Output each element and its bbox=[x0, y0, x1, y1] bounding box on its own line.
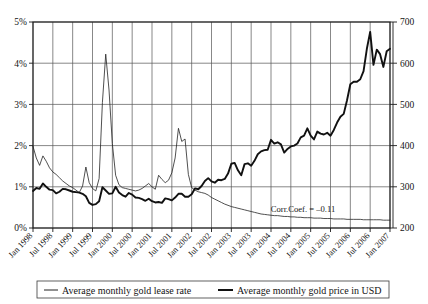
y-axis-left-tick-label: 1% bbox=[14, 182, 27, 192]
correlation-coefficient-annotation: Corr.Coef. = –0.11 bbox=[271, 204, 335, 214]
y-axis-right-tick-label: 600 bbox=[400, 59, 415, 69]
gold-lease-rate-vs-price-chart: 0%1%2%3%4%5% 200300400500600700 Jan 1998… bbox=[0, 0, 428, 304]
y-axis-right-tick-label: 300 bbox=[400, 182, 415, 192]
y-axis-left-tick-label: 4% bbox=[14, 59, 27, 69]
y-axis-left-tick-label: 3% bbox=[14, 100, 27, 110]
legend-label-gold-price: Average monthly gold price in USD bbox=[237, 285, 382, 296]
y-axis-right-tick-label: 500 bbox=[400, 100, 415, 110]
legend: Average monthly gold lease rate Average … bbox=[37, 281, 389, 298]
y-axis-left-tick-label: 2% bbox=[14, 141, 27, 151]
y-axis-right-tick-label: 400 bbox=[400, 141, 415, 151]
chart-canvas: 0%1%2%3%4%5% 200300400500600700 Jan 1998… bbox=[0, 0, 428, 304]
y-axis-right-tick-label: 700 bbox=[400, 17, 415, 27]
y-axis-left-ticks: 0%1%2%3%4%5% bbox=[14, 17, 33, 233]
y-axis-right-ticks: 200300400500600700 bbox=[390, 17, 415, 233]
x-axis-tick-labels: Jan 1998Jul 1998Jan 1999Jul 1999Jan 2000… bbox=[6, 230, 392, 260]
legend-label-lease-rate: Average monthly gold lease rate bbox=[62, 285, 192, 296]
y-axis-right-tick-label: 200 bbox=[400, 223, 415, 233]
y-axis-left-tick-label: 5% bbox=[14, 17, 27, 27]
